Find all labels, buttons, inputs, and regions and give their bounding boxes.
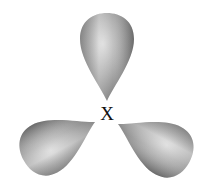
orbital-lobe-bottom-left	[11, 98, 108, 184]
orbital-lobes-graphic	[0, 0, 203, 192]
hybrid-orbital-diagram: X	[0, 0, 203, 192]
orbital-lobe-top	[80, 13, 134, 101]
orbital-lobe-bottom-right	[105, 100, 202, 186]
center-atom-label: X	[98, 103, 116, 125]
